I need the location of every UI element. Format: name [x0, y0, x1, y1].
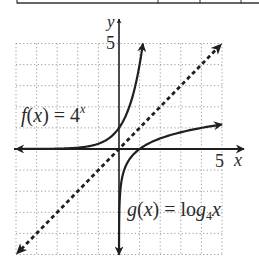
f-label-main: f(x) = 4: [21, 104, 80, 127]
g-label-main: g(x) = log: [127, 198, 206, 221]
x-axis-label: x: [233, 150, 242, 170]
g-logarithmic-curve: [119, 125, 222, 255]
g-function-label: g(x) = log4x: [127, 198, 221, 223]
g-label-tail: x: [211, 198, 221, 220]
f-label-superscript: x: [79, 102, 86, 116]
table-fragment: [17, 0, 259, 4]
y-tick-label-5: 5: [106, 33, 115, 53]
y-axis-label: y: [105, 12, 115, 31]
arrowhead-icon: [12, 243, 27, 258]
x-tick-label-5: 5: [215, 151, 224, 171]
f-function-label: f(x) = 4x: [21, 102, 86, 127]
f-exponential-curve: [16, 44, 143, 149]
function-graph: y 5 5 x f(x) = 4x g(x) = log4x: [0, 0, 259, 264]
